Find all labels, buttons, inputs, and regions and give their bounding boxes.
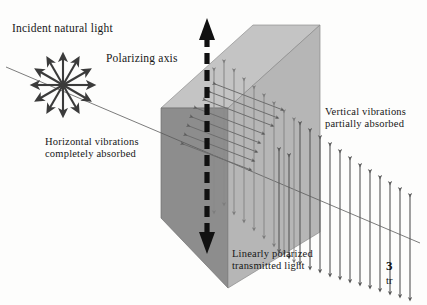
label-incident-natural-light: Incident natural light [12,22,113,36]
caption-fragment: 3 tr [386,258,393,287]
caption-text: tr [386,274,393,287]
label-linearly-polarized-transmitted-light: Linearly polarized transmitted light [232,248,313,273]
label-polarizing-axis: Polarizing axis [106,52,178,66]
label-horizontal-vibrations-absorbed: Horizontal vibrations completely absorbe… [45,136,139,161]
label-vertical-vibrations-partially-absorbed: Vertical vibrations partially absorbed [325,106,406,131]
unpolarized-vibration-starburst [33,55,93,115]
slab-left-face [161,108,228,288]
polarization-figure: Incident natural light Polarizing axis H… [0,0,427,305]
caption-number: 3 [386,258,393,273]
